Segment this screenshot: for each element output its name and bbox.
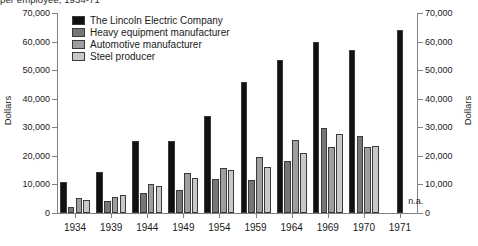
x-tick-label: 1934 [64, 222, 86, 233]
legend-item-label: The Lincoln Electric Company [90, 15, 223, 26]
y-axis-left-title: Dollars [2, 86, 13, 136]
x-tick [256, 214, 257, 218]
y-tick-left [52, 156, 57, 157]
legend-item: The Lincoln Electric Company [72, 14, 230, 26]
bar [156, 186, 163, 213]
y-tick-label-left: 10,000 [22, 179, 50, 189]
y-tick-right [418, 70, 423, 71]
x-tick [364, 214, 365, 218]
y-tick-label-left: 20,000 [22, 151, 50, 161]
y-tick-left [52, 184, 57, 185]
bar [313, 42, 320, 213]
bar [357, 136, 364, 213]
x-tick-label: 1954 [208, 222, 230, 233]
x-tick [292, 214, 293, 218]
x-tick [147, 214, 148, 218]
x-tick [75, 214, 76, 218]
y-tick-label-right: 60,000 [425, 37, 453, 47]
y-tick-label-left: 0 [45, 208, 50, 218]
bar [176, 190, 183, 213]
chart-title: per employee, 1934-71 [0, 0, 100, 5]
bar [104, 201, 111, 213]
bar [364, 147, 371, 213]
y-tick-right [418, 13, 423, 14]
y-tick-label-right: 0 [425, 208, 430, 218]
y-axis-left-labels: 010,00020,00030,00040,00050,00060,00070,… [8, 13, 50, 214]
bar [192, 178, 199, 213]
x-tick-label: 1970 [353, 222, 375, 233]
x-tick-label: 1949 [172, 222, 194, 233]
y-tick-label-right: 20,000 [425, 151, 453, 161]
legend-item: Steel producer [72, 50, 230, 62]
y-tick-right [418, 184, 423, 185]
bar [248, 180, 255, 213]
y-tick-right [418, 156, 423, 157]
bar [397, 30, 404, 213]
bar [184, 173, 191, 213]
legend-item: Automotive manufacturer [72, 38, 230, 50]
y-tick-label-right: 10,000 [425, 179, 453, 189]
bar [241, 82, 248, 213]
bar [76, 198, 83, 213]
x-tick-label: 1939 [100, 222, 122, 233]
bar [228, 170, 235, 213]
y-tick-label-left: 70,000 [22, 8, 50, 18]
legend-swatch-icon [72, 40, 85, 49]
legend-swatch-icon [72, 16, 85, 25]
legend-swatch-icon [72, 52, 85, 61]
bar [292, 140, 299, 213]
y-tick-right [418, 213, 423, 214]
bar [264, 167, 271, 213]
bar [349, 50, 356, 213]
x-tick-label: 1964 [281, 222, 303, 233]
y-tick-right [418, 99, 423, 100]
chart-legend: The Lincoln Electric CompanyHeavy equipm… [72, 14, 230, 62]
y-tick-label-right: 30,000 [425, 122, 453, 132]
y-tick-label-left: 60,000 [22, 37, 50, 47]
bar [68, 207, 75, 213]
y-tick-left [52, 42, 57, 43]
bar [256, 157, 263, 213]
legend-swatch-icon [72, 28, 85, 37]
bar [148, 184, 155, 213]
y-tick-left [52, 213, 57, 214]
bar [212, 179, 219, 213]
x-tick [219, 214, 220, 218]
legend-item-label: Steel producer [90, 51, 155, 62]
y-tick-left [52, 127, 57, 128]
y-tick-label-left: 30,000 [22, 122, 50, 132]
y-axis-right-title: Dollars [462, 86, 473, 136]
bar [96, 172, 103, 213]
bar [284, 161, 291, 213]
y-tick-label-left: 50,000 [22, 65, 50, 75]
bar [321, 128, 328, 213]
bar [372, 146, 379, 213]
bar [132, 141, 139, 213]
bar-chart: per employee, 1934-71 010,00020,00030,00… [0, 0, 478, 246]
bar [277, 60, 284, 213]
bar [140, 193, 147, 213]
x-tick-label: 1969 [317, 222, 339, 233]
y-tick-label-left: 40,000 [22, 94, 50, 104]
y-tick-right [418, 42, 423, 43]
bar [83, 200, 90, 213]
bar [168, 141, 175, 213]
x-tick-label: 1971 [389, 222, 411, 233]
na-annotation: n.a. [408, 196, 423, 206]
y-tick-right [418, 127, 423, 128]
y-tick-label-right: 50,000 [425, 65, 453, 75]
bar [336, 134, 343, 213]
x-axis-labels: 1934193919441949195419591964196919701971 [57, 222, 418, 238]
y-tick-left [52, 13, 57, 14]
bar [60, 182, 67, 213]
bar [300, 153, 307, 213]
y-tick-left [52, 99, 57, 100]
bar [204, 116, 211, 213]
x-tick [111, 214, 112, 218]
legend-item: Heavy equipment manufacturer [72, 26, 230, 38]
bar [328, 147, 335, 213]
x-tick-label: 1959 [244, 222, 266, 233]
legend-item-label: Automotive manufacturer [90, 39, 202, 50]
bar [120, 195, 127, 213]
x-tick [183, 214, 184, 218]
